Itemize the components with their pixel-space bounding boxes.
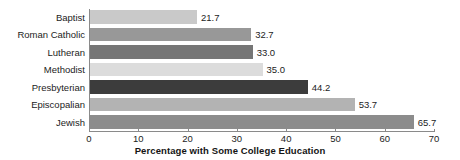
x-tick-label: 50: [330, 132, 341, 145]
bar: [90, 63, 263, 77]
x-axis-ticks: 010203040506070: [89, 132, 435, 145]
category-label: Presbyterian: [32, 79, 85, 96]
bar-row: 65.7: [89, 114, 434, 131]
bar: [90, 115, 414, 129]
x-tick-label: 20: [182, 132, 193, 145]
bar-row: 21.7: [89, 9, 434, 26]
category-label: Jewish: [56, 114, 85, 131]
bar-row: 44.2: [89, 79, 434, 96]
plot-area: 21.732.733.035.044.253.765.7: [89, 9, 434, 131]
bar: [90, 98, 355, 112]
category-label: Methodist: [44, 61, 85, 78]
x-tick-label: 10: [133, 132, 144, 145]
bar: [90, 80, 308, 94]
bar: [90, 10, 197, 24]
x-tick-label: 40: [281, 132, 292, 145]
bar-row: 53.7: [89, 96, 434, 113]
bar: [90, 45, 253, 59]
bar-value-label: 53.7: [359, 96, 378, 113]
category-label: Episcopalian: [31, 96, 85, 113]
bar-value-label: 44.2: [312, 79, 331, 96]
category-label: Roman Catholic: [17, 26, 85, 43]
category-label: Lutheran: [47, 44, 85, 61]
bar-chart: Denomination BaptistRoman CatholicLuther…: [0, 0, 460, 160]
category-label: Baptist: [56, 9, 85, 26]
bar-row: 33.0: [89, 44, 434, 61]
bar-row: 35.0: [89, 61, 434, 78]
x-tick-label: 30: [232, 132, 243, 145]
bar-row: 32.7: [89, 26, 434, 43]
x-tick-label: 70: [429, 132, 440, 145]
bar-value-label: 35.0: [267, 61, 286, 78]
bar: [90, 28, 251, 42]
x-tick-label: 0: [86, 132, 91, 145]
bar-value-label: 32.7: [255, 26, 274, 43]
x-axis-title: Percentage with Some College Education: [0, 145, 460, 156]
bar-value-label: 21.7: [201, 9, 220, 26]
x-tick-label: 60: [379, 132, 390, 145]
category-axis-labels: BaptistRoman CatholicLutheranMethodistPr…: [16, 9, 85, 131]
bar-value-label: 33.0: [257, 44, 276, 61]
